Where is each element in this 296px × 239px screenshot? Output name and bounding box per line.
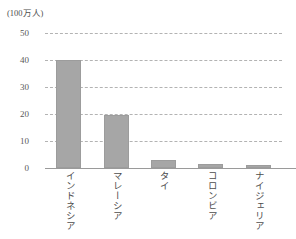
x-axis-category-label: コロンビア: [206, 171, 216, 221]
x-axis-baseline: [45, 168, 296, 169]
x-axis-category-label: タイ: [159, 171, 169, 191]
y-axis-tick-label: 10: [0, 137, 29, 146]
y-axis-tick-label: 0: [0, 164, 29, 173]
bar: [56, 60, 81, 168]
plot-area: 50403020100: [45, 33, 282, 168]
bar: [198, 164, 223, 168]
x-axis-category-labels: インドネシアマレーシアタイコロンビアナイジェリア: [45, 171, 282, 237]
x-axis-category-label: ナイジェリア: [253, 171, 263, 231]
x-axis-category-label: インドネシア: [64, 171, 74, 231]
y-axis-tick-label: 30: [0, 83, 29, 92]
y-axis-tick-label: 40: [0, 56, 29, 65]
y-axis-tick-label: 50: [0, 29, 29, 38]
bar: [104, 115, 129, 168]
bars-layer: [45, 33, 282, 168]
x-axis-category-label: マレーシア: [111, 171, 121, 221]
y-axis-tick-label: 20: [0, 110, 29, 119]
bar: [151, 160, 176, 168]
bar-chart: (100万人) 50403020100 インドネシアマレーシアタイコロンビアナイ…: [0, 0, 296, 239]
bar: [246, 165, 271, 168]
y-axis-unit-caption: (100万人): [7, 9, 43, 18]
